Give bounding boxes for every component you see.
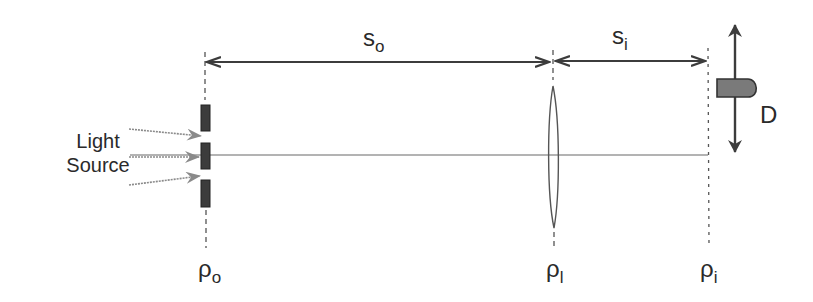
light-ray-upper [129,129,201,136]
s-o-label: so [363,26,384,50]
image-plane-dashed [708,48,709,246]
lens-icon [549,86,559,228]
aperture-block-bottom [201,180,210,207]
aperture-block-top [201,105,210,131]
s-i-label: si [612,24,628,48]
light-source-label: Light Source [58,131,138,175]
rho-o-label: ρo [198,257,221,281]
detector-label: D [760,103,777,127]
rho-l-label: ρl [546,257,563,281]
rho-i-label: ρi [700,257,717,281]
light-ray-lower [129,176,200,185]
aperture-block-middle [201,143,210,169]
detector-icon [717,79,756,97]
